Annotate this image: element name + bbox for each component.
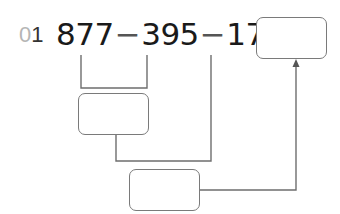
bracket-a-b <box>81 55 147 88</box>
connector-step2-to-answer <box>199 66 296 190</box>
step2-box[interactable] <box>129 169 200 211</box>
step1-box[interactable] <box>78 93 149 135</box>
answer-box[interactable] <box>256 17 327 59</box>
arrow-up-icon <box>293 59 300 67</box>
